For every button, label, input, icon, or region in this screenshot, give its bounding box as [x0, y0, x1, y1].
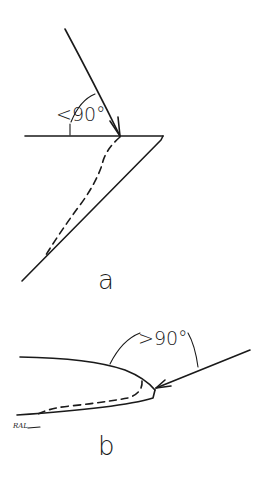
panel-a-dashed-path	[44, 137, 120, 258]
panel-b-label: b	[98, 431, 115, 461]
panel-a-angle-label: <90°	[56, 103, 106, 125]
artist-signature: RAL	[12, 422, 28, 430]
panel-b-lower-surface	[17, 390, 155, 415]
signature-underline	[28, 427, 40, 428]
panel-a-label: a	[98, 265, 114, 295]
panel-b-angle-label: >90°	[138, 327, 188, 349]
panel-b-incident-ray	[156, 350, 250, 388]
panel-a: <90° a	[22, 29, 163, 295]
panel-b-arrowhead	[156, 380, 171, 388]
diagram-canvas: <90° a >90° b RAL	[0, 0, 266, 478]
panel-b: >90° b RAL	[12, 327, 250, 461]
panel-b-upper-surface	[20, 357, 155, 390]
panel-a-wedge-edge	[22, 136, 163, 281]
